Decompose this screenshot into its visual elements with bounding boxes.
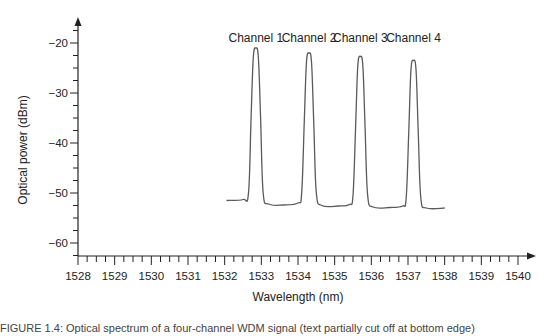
y-tick-label: −60 <box>48 237 68 249</box>
x-tick-label: 1531 <box>175 270 201 282</box>
x-tick-label: 1536 <box>359 270 385 282</box>
spectrum-trace <box>227 48 445 209</box>
x-tick-label: 1535 <box>322 270 348 282</box>
x-axis: 1528152915301531153215331534153515361537… <box>65 253 536 283</box>
x-tick-label: 1528 <box>65 270 91 282</box>
x-tick-label: 1534 <box>285 270 311 282</box>
y-axis-title: Optical power (dBm) <box>16 95 30 204</box>
x-tick-label: 1530 <box>139 270 165 282</box>
channel-label: Channel 2 <box>282 31 337 45</box>
y-tick-label: −40 <box>48 137 68 149</box>
y-axis: −20−30−40−50−60 <box>48 17 81 256</box>
channel-label: Channel 1 <box>228 31 283 45</box>
x-axis-arrow-icon <box>527 253 536 260</box>
y-axis-arrow-icon <box>75 17 82 26</box>
y-tick-label: −50 <box>48 187 68 199</box>
figure-caption: FIGURE 1.4: Optical spectrum of a four-c… <box>0 322 553 336</box>
x-axis-title: Wavelength (nm) <box>253 290 344 304</box>
x-tick-label: 1539 <box>469 270 495 282</box>
channel-labels: Channel 1Channel 2Channel 3Channel 4 <box>228 31 441 45</box>
x-tick-label: 1533 <box>249 270 275 282</box>
y-tick-label: −20 <box>48 37 68 49</box>
x-tick-label: 1532 <box>212 270 238 282</box>
x-tick-label: 1540 <box>505 270 531 282</box>
x-tick-label: 1538 <box>432 270 458 282</box>
channel-label: Channel 4 <box>386 31 441 45</box>
x-tick-label: 1529 <box>102 270 128 282</box>
channel-label: Channel 3 <box>333 31 388 45</box>
x-tick-label: 1537 <box>395 270 421 282</box>
y-tick-label: −30 <box>48 87 68 99</box>
